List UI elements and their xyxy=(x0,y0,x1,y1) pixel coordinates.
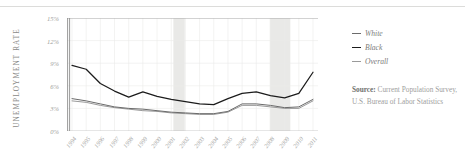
chart-legend: WhiteBlackOverall xyxy=(352,27,462,69)
x-tick-label: 1995 xyxy=(79,135,92,149)
plot-container: 15%12%9%6%3%0% 1994199519961997199819992… xyxy=(33,18,323,166)
legend-swatch-line-icon xyxy=(352,61,361,62)
x-tick-label: 2002 xyxy=(178,135,191,149)
chart-figure: UNEMPLOYMENT RATE 15%12%9%6%3%0% 1994199… xyxy=(0,0,465,167)
x-tick-label: 2001 xyxy=(164,135,177,149)
top-divider xyxy=(0,6,465,7)
y-tick-label: 3% xyxy=(50,105,59,112)
legend-item[interactable]: Black xyxy=(352,41,462,53)
legend-swatch-line-icon xyxy=(352,33,361,34)
x-tick-label: 1997 xyxy=(107,135,120,149)
x-tick-label: 2005 xyxy=(220,135,233,149)
source-note: Source: Current Population Survey, U.S. … xyxy=(352,84,460,107)
x-tick-label: 2008 xyxy=(263,135,276,149)
y-tick-label: 9% xyxy=(50,60,59,67)
x-tick-label: 1996 xyxy=(93,135,106,149)
x-tick-label: 2007 xyxy=(249,135,262,149)
x-tick-label: 2010 xyxy=(291,135,304,149)
y-axis-title: UNEMPLOYMENT RATE xyxy=(13,28,21,127)
legend-label: Overall xyxy=(365,57,388,66)
y-tick-label: 12% xyxy=(47,37,59,44)
x-tick-label: 2000 xyxy=(149,135,162,149)
recession-band xyxy=(173,18,184,131)
legend-swatch-line-icon xyxy=(352,47,361,48)
x-tick-label: 1999 xyxy=(135,135,148,149)
x-axis-tick-labels: 1994199519961997199819992000200120022003… xyxy=(67,133,318,167)
chart-canvas xyxy=(67,18,318,131)
legend-label: Black xyxy=(365,43,382,52)
x-tick-label: 2006 xyxy=(234,135,247,149)
y-axis-title-wrap: UNEMPLOYMENT RATE xyxy=(6,18,28,138)
x-tick-label: 1994 xyxy=(64,135,77,149)
legend-item[interactable]: Overall xyxy=(352,55,462,67)
legend-item[interactable]: White xyxy=(352,27,462,39)
x-tick-label: 2003 xyxy=(192,135,205,149)
x-tick-label: 1998 xyxy=(121,135,134,149)
source-label: Source: xyxy=(352,85,376,94)
x-tick-label: 2011 xyxy=(306,135,319,149)
legend-label: White xyxy=(365,29,383,38)
y-tick-label: 15% xyxy=(47,15,59,22)
y-tick-label: 0% xyxy=(50,128,59,135)
y-tick-label: 6% xyxy=(50,82,59,89)
x-tick-label: 2009 xyxy=(277,135,290,149)
x-tick-label: 2004 xyxy=(206,135,219,149)
y-axis-tick-labels: 15%12%9%6%3%0% xyxy=(33,18,61,131)
plot-area xyxy=(67,18,318,131)
recession-band xyxy=(270,18,291,131)
